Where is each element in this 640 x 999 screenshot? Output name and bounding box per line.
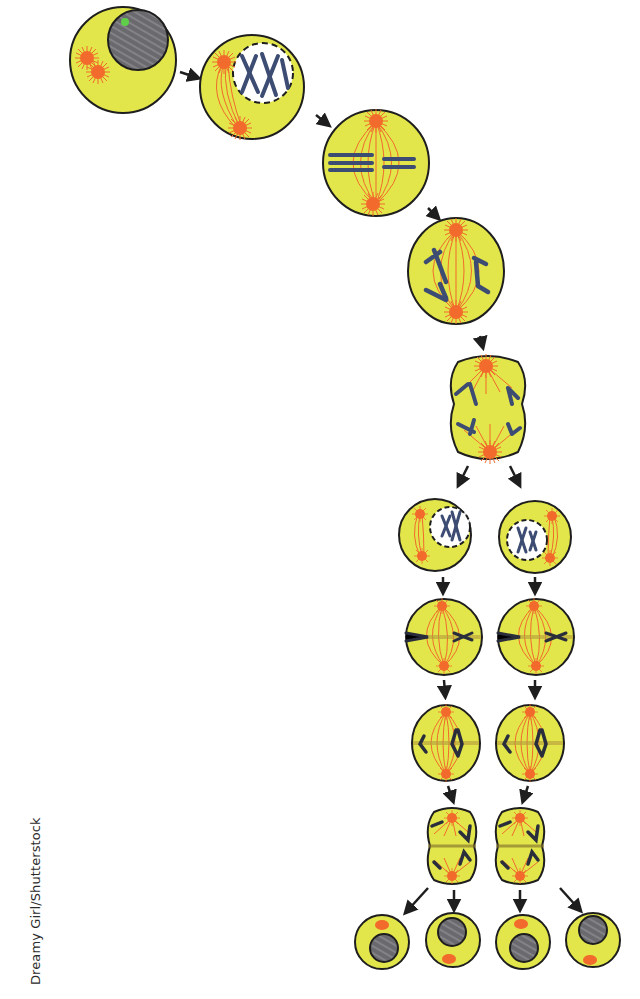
- arrow-icon: [180, 72, 195, 77]
- cell-prophase-1: [200, 35, 304, 140]
- cell-anaphase-1: [408, 218, 504, 324]
- arrow-icon: [524, 786, 528, 798]
- cell-anaphase-2-left: [412, 704, 480, 782]
- cell-metaphase-2-left: [406, 598, 482, 675]
- cell-telophase-2-left: [428, 808, 477, 884]
- image-credit: Dreamy Girl/Shutterstock: [28, 817, 43, 985]
- arrow-icon: [480, 336, 482, 344]
- arrow-icon: [448, 786, 452, 798]
- arrow-icon: [316, 115, 326, 123]
- cell-telophase-2-right: [496, 808, 545, 884]
- daughter-cell-3: [496, 915, 550, 969]
- arrow-icon: [510, 466, 518, 482]
- daughter-cell-2: [426, 913, 480, 967]
- arrow-icon: [560, 888, 578, 908]
- daughter-cell-4: [566, 913, 620, 967]
- arrow-icon: [460, 466, 468, 482]
- arrow-icon: [444, 680, 445, 693]
- cell-telophase-1: [451, 354, 525, 464]
- cell-prophase-2-left: [399, 499, 471, 571]
- daughter-cell-1: [355, 915, 409, 969]
- arrow-icon: [428, 208, 436, 216]
- cell-anaphase-2-right: [496, 704, 564, 782]
- cell-prophase-2-right: [499, 501, 571, 573]
- cell-metaphase-1: [323, 109, 429, 216]
- meiosis-diagram: [0, 0, 640, 999]
- cell-metaphase-2-right: [498, 598, 574, 675]
- arrow-icon: [408, 888, 428, 910]
- cell-interphase: [70, 7, 176, 113]
